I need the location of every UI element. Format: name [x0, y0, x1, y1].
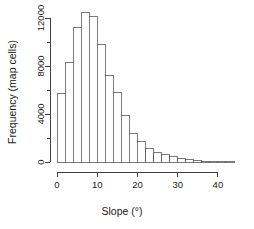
- x-axis-tick-label: 40: [213, 179, 224, 190]
- y-axis-tick-label: 12000: [35, 5, 46, 31]
- chart-canvas: 04000800012000010203040 Slope (°) Freque…: [0, 0, 254, 229]
- x-axis-title: Slope (°): [102, 205, 143, 217]
- histogram-bar: [146, 148, 154, 162]
- x-axis-tick-label: 20: [132, 179, 143, 190]
- histogram-bar: [73, 28, 81, 162]
- histogram-bar: [113, 92, 121, 162]
- x-axis-tick-label: 30: [172, 179, 183, 190]
- histogram-bar: [218, 162, 226, 163]
- histogram-bar: [186, 160, 194, 162]
- histogram-bar: [154, 152, 162, 162]
- histogram-bar: [65, 62, 73, 162]
- histogram-bar: [226, 162, 234, 163]
- histogram-figure: 04000800012000010203040 Slope (°) Freque…: [0, 0, 254, 229]
- histogram-bar: [210, 162, 218, 163]
- y-axis-tick-label: 4000: [35, 103, 46, 124]
- histogram-bar: [97, 44, 105, 162]
- histogram-bar: [162, 155, 170, 162]
- histogram-bar: [81, 12, 89, 162]
- histogram-bar: [129, 133, 137, 162]
- histogram-bar: [121, 115, 129, 162]
- histogram-bar: [178, 158, 186, 162]
- histogram-bars: [57, 12, 234, 162]
- histogram-bar: [57, 94, 65, 162]
- y-axis-title: Frequency (map cells): [6, 40, 18, 144]
- x-axis-tick-label: 10: [92, 179, 103, 190]
- histogram-bar: [202, 161, 210, 162]
- histogram-bar: [170, 157, 178, 162]
- y-axis-tick-label: 0: [35, 159, 46, 164]
- histogram-bar: [105, 76, 113, 162]
- x-axis-tick-label: 0: [54, 179, 59, 190]
- histogram-bar: [194, 161, 202, 162]
- y-axis-tick-label: 8000: [35, 55, 46, 76]
- histogram-bar: [137, 142, 145, 162]
- histogram-bar: [89, 17, 97, 162]
